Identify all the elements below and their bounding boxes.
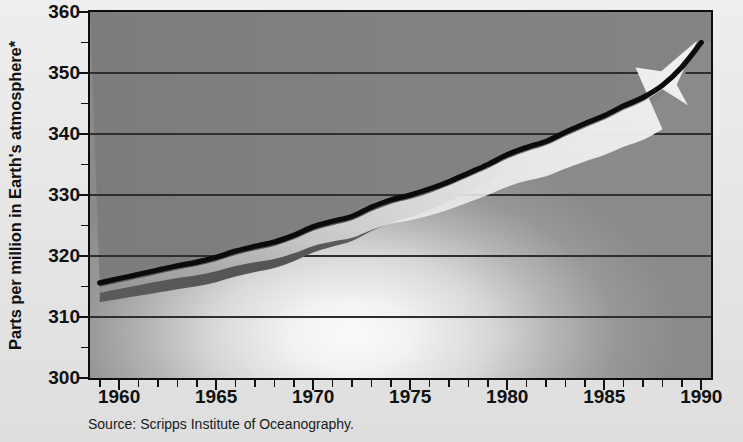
y-tick-label: 330 (30, 184, 80, 206)
x-tick-label: 1975 (370, 386, 450, 408)
x-tick-label: 1965 (176, 386, 256, 408)
y-tick-label: 360 (30, 1, 80, 23)
source-note: Source: Scripps Institute of Oceanograph… (88, 416, 354, 432)
y-tick-label: 320 (30, 245, 80, 267)
y-tick-label: 310 (30, 306, 80, 328)
x-tick-label: 1985 (564, 386, 644, 408)
plot-area (88, 10, 713, 380)
y-tick-label: 300 (30, 367, 80, 389)
y-axis-title: Parts per million in Earth's atmosphere* (0, 0, 30, 390)
y-axis-tick-labels: 300310320330340350360 (28, 0, 80, 442)
x-tick-label: 1990 (661, 386, 741, 408)
plot-canvas (90, 12, 711, 378)
y-tick-label: 350 (30, 62, 80, 84)
x-tick-label: 1960 (79, 386, 159, 408)
y-tick-label: 340 (30, 123, 80, 145)
x-tick-label: 1980 (467, 386, 547, 408)
x-tick-label: 1970 (273, 386, 353, 408)
co2-concentration-chart: Parts per million in Earth's atmosphere*… (0, 0, 743, 442)
y-axis-title-text: Parts per million in Earth's atmosphere* (6, 41, 25, 350)
